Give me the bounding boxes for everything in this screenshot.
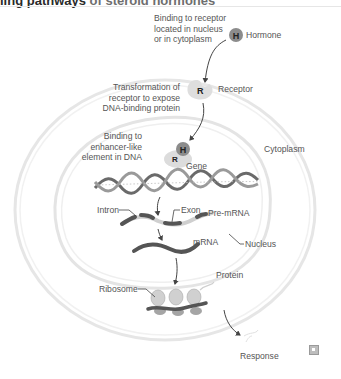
- label-line: Binding to: [80, 131, 142, 142]
- label-line: enhancer-like: [80, 142, 142, 153]
- label-line: DNA-binding protein: [98, 103, 180, 114]
- signaling-diagram: H R H R: [0, 0, 341, 379]
- label-nucleus: Nucleus: [245, 239, 276, 250]
- svg-text:H: H: [233, 31, 240, 41]
- label-line: Binding to receptor: [154, 13, 226, 24]
- label-hormone: Hormone: [246, 30, 281, 41]
- label-mrna: mRNA: [193, 237, 218, 248]
- intron-leader: [119, 210, 136, 216]
- label-receptor: Receptor: [218, 84, 253, 95]
- receptor-shape: R: [187, 80, 212, 100]
- arrow-premrna-to-mrna: [158, 229, 162, 240]
- arrow-receptor-to-dna: [190, 103, 204, 140]
- hormone-molecule: H: [229, 28, 243, 42]
- label-ribosome: Ribosome: [99, 284, 138, 295]
- label-line: located in nucleus: [154, 24, 226, 35]
- arrow-dna-to-premrna: [157, 197, 160, 215]
- response-squiggle: [244, 330, 258, 342]
- nucleus-leader: [229, 234, 244, 244]
- label-line: receptor to expose: [98, 93, 180, 104]
- label-line: or in cytoplasm: [154, 34, 226, 45]
- dna-helix: [95, 169, 258, 193]
- label-line: Transformation of: [98, 82, 180, 93]
- expand-icon[interactable]: [309, 345, 319, 355]
- label-line: element in DNA: [80, 152, 142, 163]
- label-transformation: Transformation of receptor to expose DNA…: [98, 82, 180, 114]
- svg-text:R: R: [197, 86, 204, 96]
- label-protein: Protein: [216, 270, 243, 281]
- label-gene: Gene: [186, 161, 207, 172]
- arrow-hormone-to-receptor: [205, 40, 226, 82]
- label-binding-enhancer: Binding to enhancer-like element in DNA: [80, 131, 142, 163]
- label-response: Response: [240, 351, 279, 362]
- label-binding-receptor: Binding to receptor located in nucleus o…: [154, 13, 226, 45]
- svg-text:H: H: [180, 145, 187, 155]
- svg-text:R: R: [172, 155, 178, 164]
- label-exon: Exon: [181, 205, 201, 216]
- label-intron: Intron: [97, 205, 119, 216]
- label-pre-mrna: Pre-mRNA: [208, 208, 250, 219]
- arrow-mrna-to-ribosome: [175, 258, 177, 284]
- mrna-strand: [134, 244, 198, 252]
- exon-leader: [172, 210, 180, 222]
- label-cytoplasm: Cytoplasm: [264, 144, 305, 155]
